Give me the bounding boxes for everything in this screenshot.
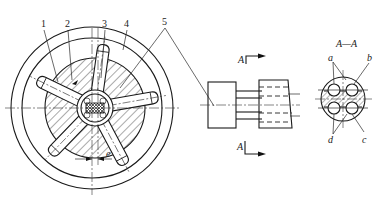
section-marker-bottom: A	[236, 141, 266, 157]
part-label-4: 4	[124, 18, 129, 29]
section-label-d: d	[328, 134, 334, 145]
drawing-canvas: e 1 2 3 4 5	[0, 0, 387, 201]
part-label-3: 3	[102, 18, 107, 29]
arrow-right-icon	[258, 54, 266, 59]
section-mark-label: A	[237, 54, 245, 65]
front-view: e 1 2 3 4 5	[5, 16, 214, 195]
section-view: A—A a b c d	[315, 38, 372, 145]
section-label-a: a	[328, 52, 333, 63]
eccentricity-label: e	[106, 148, 111, 159]
section-label-c: c	[362, 134, 367, 145]
arrow-right-icon	[258, 152, 266, 157]
section-label-b: b	[367, 52, 372, 63]
section-marker-top: A	[237, 54, 266, 66]
side-view: A A	[200, 54, 300, 157]
part-label-2: 2	[65, 18, 70, 29]
section-mark-label: A	[236, 141, 244, 152]
section-title: A—A	[335, 38, 358, 49]
part-label-1: 1	[41, 18, 46, 29]
part-label-5: 5	[162, 16, 167, 27]
